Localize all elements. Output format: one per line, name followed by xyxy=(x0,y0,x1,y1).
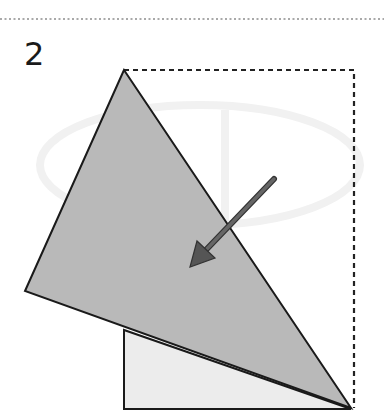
fold-diagram xyxy=(0,0,384,415)
